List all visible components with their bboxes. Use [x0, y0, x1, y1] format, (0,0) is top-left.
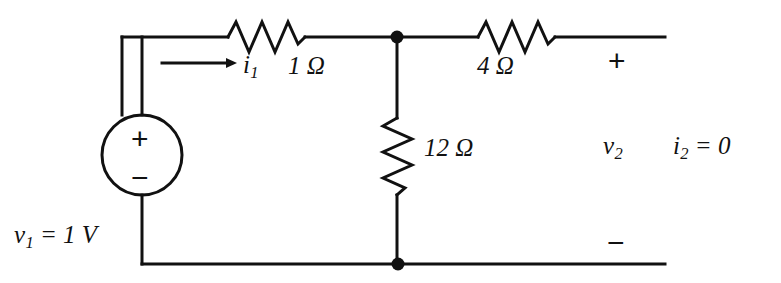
- polarity-plus-output: +: [608, 46, 626, 76]
- label-output-current: i2 = 0: [673, 133, 730, 162]
- label-output-current-symbol: i: [673, 132, 680, 159]
- label-current-i1-symbol: i: [243, 51, 250, 78]
- label-resistor-1-ohm: 1 Ω: [288, 53, 325, 78]
- label-output-voltage-symbol: v: [603, 132, 614, 159]
- circuit-figure: v1 = 1 V i1 1 Ω 4 Ω 12 Ω v2 i2 = 0 + − +…: [0, 0, 781, 283]
- label-current-i1: i1: [243, 52, 259, 81]
- node-dot-top: [391, 31, 404, 44]
- polarity-minus-source: −: [131, 163, 149, 193]
- label-output-voltage-subscript: 2: [614, 144, 623, 163]
- node-dot-bottom: [392, 258, 405, 271]
- label-resistor-12-ohm: 12 Ω: [424, 135, 473, 160]
- polarity-minus-output: −: [607, 228, 625, 258]
- circuit-schematic-drawing: [0, 0, 781, 283]
- resistor-12-ohm-zigzag: [383, 118, 412, 195]
- label-source-voltage: v1 = 1 V: [14, 222, 97, 251]
- label-source-voltage-symbol: v: [14, 221, 25, 248]
- label-output-current-subscript: 2: [680, 144, 689, 163]
- label-output-current-value: = 0: [689, 132, 731, 159]
- polarity-plus-source: +: [131, 124, 149, 154]
- label-source-voltage-value: = 1 V: [34, 221, 97, 248]
- label-resistor-4-ohm: 4 Ω: [477, 53, 514, 78]
- current-arrow-i1-head: [226, 58, 237, 68]
- label-output-voltage: v2: [603, 133, 623, 162]
- label-source-voltage-subscript: 1: [25, 233, 34, 252]
- label-current-i1-subscript: 1: [250, 63, 259, 82]
- resistor-4-ohm-zigzag: [478, 22, 555, 52]
- resistor-1-ohm-zigzag: [228, 22, 305, 52]
